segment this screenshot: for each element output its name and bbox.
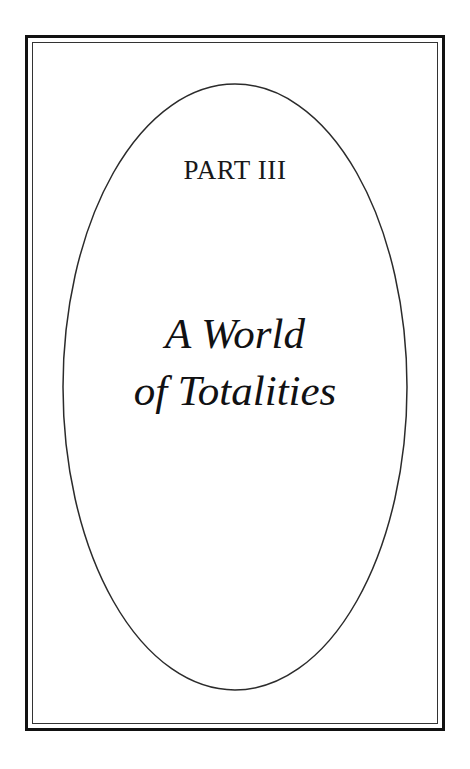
page-title-line-1: A World <box>0 305 470 362</box>
book-part-divider-page: PART III A World of Totalities <box>0 0 470 769</box>
page-title: A World of Totalities <box>0 305 470 419</box>
part-divider-text: PART III A World of Totalities <box>0 0 470 769</box>
part-number-label: PART III <box>0 155 470 186</box>
page-title-line-2: of Totalities <box>0 362 470 419</box>
